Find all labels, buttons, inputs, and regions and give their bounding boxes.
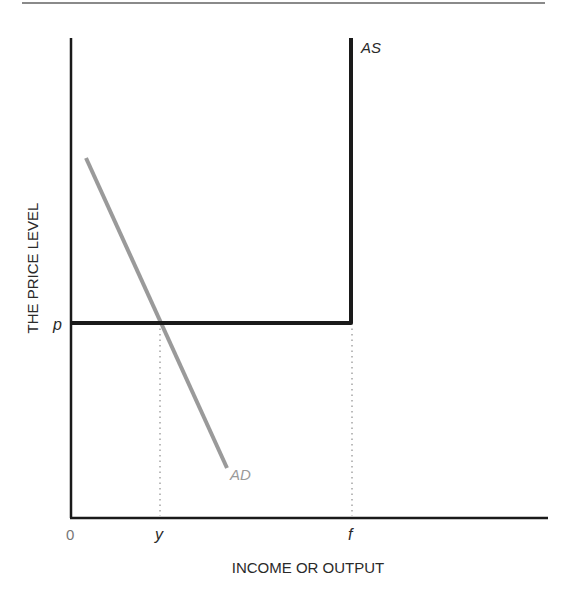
x-axis-title: INCOME OR OUTPUT [232, 559, 385, 576]
tick-y: y [154, 526, 164, 543]
as-curve [71, 38, 351, 323]
y-axis-title: THE PRICE LEVEL [24, 203, 41, 334]
tick-f: f [348, 526, 354, 543]
ad-curve [86, 158, 227, 468]
chart: AS AD p 0 y f INCOME OR OUTPUT THE PRICE… [0, 0, 563, 601]
as-label: AS [360, 39, 381, 56]
ad-label: AD [229, 466, 251, 483]
tick-origin: 0 [66, 526, 74, 543]
tick-p: p [52, 316, 62, 333]
